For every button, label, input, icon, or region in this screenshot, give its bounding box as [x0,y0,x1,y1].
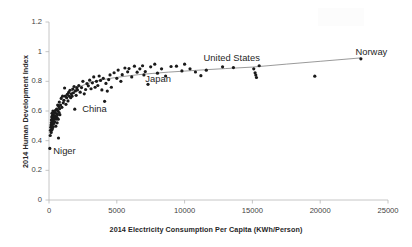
data-point [73,108,76,111]
data-point [175,65,178,68]
annotation-united-states: United States [204,52,260,63]
data-point [89,87,92,90]
data-point [112,71,115,74]
data-point [117,68,120,71]
data-point [48,147,51,150]
data-point [65,96,68,99]
data-point [108,73,111,76]
annotation-china: China [82,103,107,114]
data-point [96,84,99,87]
data-point [56,121,59,124]
data-point [194,70,197,73]
data-point [79,91,82,94]
data-point [99,79,102,82]
data-point [87,84,90,87]
data-point [127,67,130,70]
data-point [57,118,60,121]
data-point [149,65,152,68]
data-point [138,67,141,70]
y-tick-label: 1.2 [16,17,42,26]
data-point [57,136,60,139]
data-point [130,75,133,78]
data-point [160,67,163,70]
data-point [102,77,105,80]
data-point [49,134,52,137]
data-point [94,86,97,89]
x-tick-label: 10000 [165,206,205,215]
data-point [106,90,109,93]
data-point [258,64,261,67]
data-point [76,88,79,91]
data-point [123,66,126,69]
data-point [83,92,86,95]
y-tick-label: 0.4 [16,136,42,145]
data-point [188,67,191,70]
data-point [153,63,156,66]
data-point [81,80,84,83]
data-point [199,74,202,77]
data-point [126,70,129,73]
data-point [98,74,101,77]
data-point [63,86,66,89]
data-point [62,99,65,102]
data-point [359,57,362,60]
data-point [313,75,316,78]
data-point [115,77,118,80]
data-point [75,94,78,97]
data-point [221,65,224,68]
y-tick-label: 0.8 [16,76,42,85]
x-tick-label: 20000 [300,206,340,215]
y-tick-label: 0.6 [16,106,42,115]
data-point [66,99,69,102]
data-point [252,67,255,70]
annotation-norway: Norway [356,46,388,57]
data-point [107,78,110,81]
data-point [60,106,63,109]
data-point [141,64,144,67]
x-axis-title: 2014 Electricity Consumption Per Capita … [0,225,412,234]
data-point [119,80,122,83]
data-point [100,88,103,91]
data-point [183,63,186,66]
data-point [121,73,124,76]
data-point [95,80,98,83]
data-point [104,82,107,85]
y-tick-label: 1 [16,47,42,56]
chart-container: 2014 Human Development Index 2014 Electr… [0,0,412,247]
data-point [91,81,94,84]
data-point [58,113,61,116]
x-tick-label: 15000 [232,206,272,215]
annotation-niger: Niger [53,145,75,156]
data-point [64,103,67,106]
data-point [180,69,183,72]
data-point [169,65,172,68]
data-point [232,66,235,69]
data-point [58,101,61,104]
x-tick-label: 5000 [97,206,137,215]
data-point [88,79,91,82]
data-point [133,65,136,68]
y-tick-label: 0.2 [16,165,42,174]
data-point [54,125,57,128]
data-point [92,75,95,78]
data-point [255,76,258,79]
data-point [51,125,54,128]
data-point [77,84,80,87]
data-point [70,95,73,98]
data-point [80,86,83,89]
data-point [136,71,139,74]
trend-line [72,58,361,91]
data-point [84,88,87,91]
y-tick-label: 0 [16,195,42,204]
annotation-japan: Japan [145,73,171,84]
data-point [110,86,113,89]
data-point [205,69,208,72]
x-tick-label: 0 [29,206,69,215]
x-tick-label: 25000 [368,206,408,215]
